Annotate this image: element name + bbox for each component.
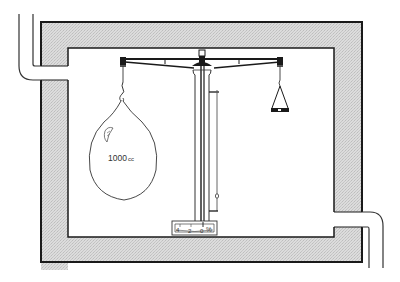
scale-unit-percent: % xyxy=(206,226,212,233)
outlet-pipe xyxy=(362,212,383,268)
flask-volume-number: 1000 xyxy=(108,153,127,163)
diagram-canvas: 1000cc 4 2 0 % xyxy=(0,0,400,282)
flask-volume-unit: cc xyxy=(128,156,134,162)
inlet-pipe xyxy=(19,14,41,80)
scale-box: 4 2 0 % xyxy=(172,221,217,235)
